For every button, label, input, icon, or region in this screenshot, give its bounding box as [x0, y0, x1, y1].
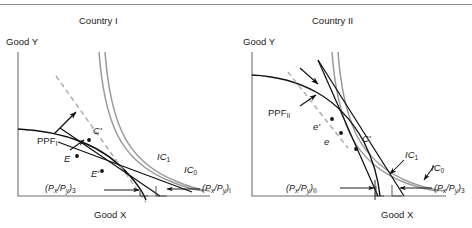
point-marker-c-prime-country-1	[87, 138, 91, 142]
diagram-svg	[0, 0, 472, 228]
ppf-label-country-2: PPFII	[268, 108, 290, 118]
point-label-e-country-2: e	[324, 137, 329, 147]
ic0-label-sub-country-1: 0	[194, 169, 198, 176]
pr2-x-country-2: x	[295, 187, 298, 194]
pr2-y-country-2: y	[307, 187, 310, 194]
pr2-slash-country-2: /P	[298, 183, 307, 193]
pr2-open-country-2: (P	[286, 183, 295, 193]
ic1-label-country-1: IC1	[157, 152, 170, 162]
point-label-c-prime-country-2: C'	[362, 134, 371, 144]
point-label-e-prime-country-1: E'	[91, 169, 99, 179]
ic0-label-country-2: IC0	[431, 163, 444, 173]
x-axis-label-country-1: Good X	[94, 210, 126, 220]
terms-of-trade-line-3-country-2	[318, 60, 404, 196]
ic0-label-sub-country-2: 0	[441, 167, 445, 174]
ic1-label-country-2: IC1	[405, 150, 418, 160]
ic1-label-sub-country-2: 1	[415, 154, 419, 161]
indifference-curve-ic0-country-2	[338, 52, 444, 191]
ppf-label-country-1: PPFI	[37, 136, 57, 146]
point-label-e-prime-country-2: e'	[313, 122, 320, 132]
ppf-curve-country-2	[252, 75, 380, 196]
pr3-slash-country-1: /P	[57, 183, 66, 193]
pr3b-x-country-2: x	[443, 187, 446, 194]
axes-country-2	[252, 52, 446, 196]
pr3-y-country-1: y	[66, 187, 69, 194]
pr1-open-country-1: (P	[202, 183, 211, 193]
figure-canvas: Country I Good Y Good X PPFI C' E E' IC1…	[0, 0, 472, 228]
y-axis-label-country-1: Good Y	[6, 37, 38, 47]
pr1-slash-country-1: /P	[214, 183, 223, 193]
pr2-sub-country-2: II	[313, 187, 317, 194]
price-ratio-2-label-country-2: (Px/Py)II	[286, 184, 317, 193]
terms-of-trade-line-1-country-1	[58, 142, 192, 192]
terms-of-trade-line-2-country-2	[318, 60, 378, 196]
point-marker-e-country-1	[75, 154, 79, 158]
ic0-label-text-country-1: IC	[184, 164, 194, 175]
pr1-sub-country-1: I	[229, 187, 231, 194]
ppf-label-sub-country-2: II	[286, 112, 290, 119]
point-marker-e-country-2	[339, 131, 343, 135]
pr3-open-country-1: (P	[45, 183, 54, 193]
price-ratio-3-label-country-1: (Px/Py)3	[45, 184, 76, 193]
pr3b-open-country-2: (P	[434, 183, 443, 193]
pr3-sub-country-1: 3	[72, 187, 76, 194]
pr3b-y-country-2: y	[455, 187, 458, 194]
panel-country-2	[252, 52, 446, 200]
point-marker-e-prime-country-1	[100, 169, 104, 173]
ic1-label-text-country-2: IC	[405, 149, 415, 160]
panel-country-1	[18, 52, 210, 202]
ppf-label-text-country-2: PPF	[268, 107, 286, 118]
ic1-label-sub-country-1: 1	[167, 156, 171, 163]
point-marker-e-prime-country-2	[330, 117, 334, 121]
y-axis-label-country-2: Good Y	[243, 37, 275, 47]
x-axis-label-country-2: Good X	[381, 210, 413, 220]
price-ratio-1-label-country-1: (Px/Py)I	[202, 184, 231, 193]
ppf-label-text-country-1: PPF	[37, 135, 55, 146]
leader-ic1-country-2	[390, 160, 404, 174]
pr1-x-country-1: x	[211, 187, 214, 194]
price-ratio-3-label-country-2: (Px/Py)3	[434, 184, 465, 193]
panel-title-country-1: Country I	[79, 16, 118, 26]
indifference-curve-ic1-country-2	[332, 52, 438, 191]
point-label-e-country-1: E	[64, 154, 70, 164]
axes-country-1	[18, 52, 210, 196]
pr3-x-country-1: x	[54, 187, 57, 194]
point-label-c-prime-country-1: C'	[93, 126, 102, 136]
ic0-label-text-country-2: IC	[431, 162, 441, 173]
leader-ppf-country-2	[300, 95, 316, 106]
pr3b-sub-country-2: 3	[461, 187, 465, 194]
ic0-label-country-1: IC0	[184, 165, 197, 175]
point-marker-c-prime-country-2	[354, 147, 358, 151]
pr1-y-country-1: y	[223, 187, 226, 194]
panel-title-country-2: Country II	[312, 16, 353, 26]
ic1-label-text-country-1: IC	[157, 151, 167, 162]
shift-arrow-country-2	[300, 68, 318, 84]
pr3b-slash-country-2: /P	[446, 183, 455, 193]
